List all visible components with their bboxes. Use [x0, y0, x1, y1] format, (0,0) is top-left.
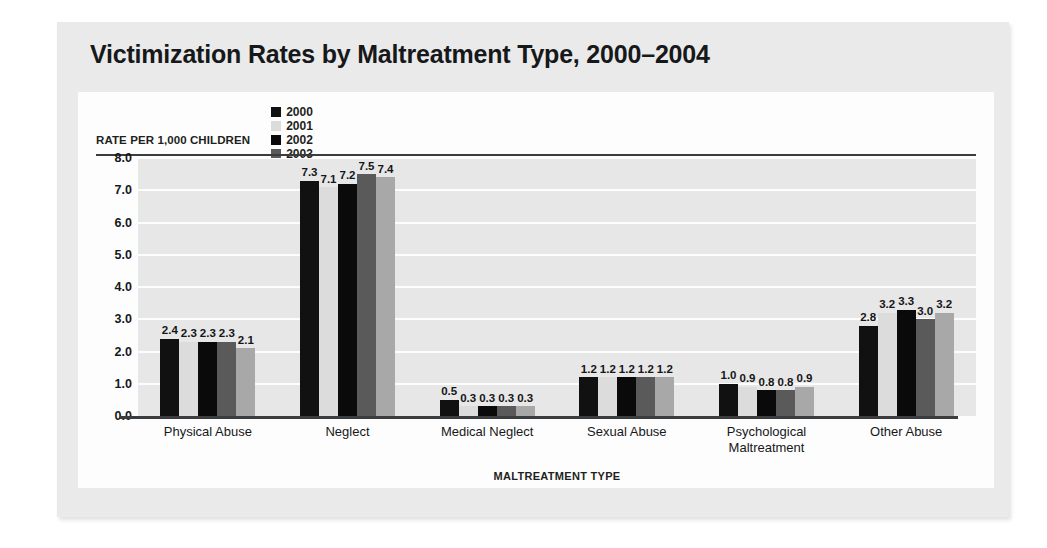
bar[interactable] — [859, 326, 878, 416]
bar[interactable] — [636, 377, 655, 416]
bar-column[interactable]: 1.0 — [719, 158, 738, 416]
bar-column[interactable]: 3.0 — [916, 158, 935, 416]
bar-column[interactable]: 3.2 — [935, 158, 954, 416]
bar-value-label: 7.1 — [321, 174, 337, 186]
bar-column[interactable]: 0.9 — [795, 158, 814, 416]
bar-value-label: 0.5 — [441, 386, 457, 398]
bar[interactable] — [878, 313, 897, 416]
bar[interactable] — [300, 181, 319, 416]
y-axis-tick-label: 2.0 — [115, 345, 132, 359]
bar-column[interactable]: 3.2 — [878, 158, 897, 416]
bar-value-label: 1.2 — [619, 364, 635, 376]
bar-column[interactable]: 1.2 — [617, 158, 636, 416]
bar-group-bars: 1.00.90.80.80.9 — [719, 158, 814, 416]
bar[interactable] — [217, 342, 236, 416]
bar[interactable] — [179, 342, 198, 416]
x-axis-category-label: Physical Abuse — [138, 424, 278, 457]
bar-value-label: 2.3 — [219, 328, 235, 340]
bar-column[interactable]: 2.3 — [198, 158, 217, 416]
bar-column[interactable]: 7.3 — [300, 158, 319, 416]
bar-column[interactable]: 2.8 — [859, 158, 878, 416]
bar[interactable] — [655, 377, 674, 416]
bar[interactable] — [478, 406, 497, 416]
bar-value-label: 0.8 — [759, 377, 775, 389]
legend-swatch-icon — [271, 121, 281, 131]
y-axis-tick-label: 7.0 — [115, 183, 132, 197]
bar-column[interactable]: 0.5 — [440, 158, 459, 416]
bar-value-label: 3.2 — [936, 299, 952, 311]
bar-value-label: 3.2 — [879, 299, 895, 311]
title-band: Victimization Rates by Maltreatment Type… — [57, 22, 1009, 92]
bar[interactable] — [579, 377, 598, 416]
bar-column[interactable]: 0.3 — [478, 158, 497, 416]
bar[interactable] — [357, 174, 376, 416]
bar-value-label: 2.3 — [181, 328, 197, 340]
bar[interactable] — [598, 377, 617, 416]
bar[interactable] — [497, 406, 516, 416]
legend-item: 2000 — [271, 105, 313, 119]
bar-column[interactable]: 2.3 — [179, 158, 198, 416]
bar-value-label: 3.3 — [898, 296, 914, 308]
bar-column[interactable]: 0.3 — [497, 158, 516, 416]
bar-value-label: 0.9 — [797, 373, 813, 385]
bar[interactable] — [516, 406, 535, 416]
bar[interactable] — [617, 377, 636, 416]
bar-value-label: 0.8 — [778, 377, 794, 389]
bar[interactable] — [198, 342, 217, 416]
bar-column[interactable]: 2.4 — [160, 158, 179, 416]
bar-column[interactable]: 0.8 — [757, 158, 776, 416]
bar-value-label: 0.3 — [460, 393, 476, 405]
legend-item-label: 2002 — [286, 133, 313, 147]
bar-value-label: 2.1 — [238, 335, 254, 347]
page-title: Victimization Rates by Maltreatment Type… — [90, 40, 710, 69]
screenshot-root: Victimization Rates by Maltreatment Type… — [0, 0, 1047, 548]
x-axis-category-label: Psychological Maltreatment — [697, 424, 837, 457]
bar-value-label: 2.8 — [860, 312, 876, 324]
legend-item: 2001 — [271, 119, 313, 133]
bar[interactable] — [916, 319, 935, 416]
bar-column[interactable]: 1.2 — [598, 158, 617, 416]
bar-column[interactable]: 0.3 — [459, 158, 478, 416]
bar-value-label: 1.2 — [600, 364, 616, 376]
bar[interactable] — [160, 339, 179, 416]
legend-item-label: 2001 — [286, 119, 313, 133]
bar[interactable] — [897, 310, 916, 416]
bar[interactable] — [236, 348, 255, 416]
bar-column[interactable]: 7.4 — [376, 158, 395, 416]
bar-column[interactable]: 1.2 — [636, 158, 655, 416]
bar[interactable] — [776, 390, 795, 416]
bar[interactable] — [795, 387, 814, 416]
x-axis-category-labels: Physical AbuseNeglectMedical NeglectSexu… — [138, 424, 976, 457]
legend-swatch-icon — [271, 135, 281, 145]
bar[interactable] — [719, 384, 738, 416]
bar-group: 2.83.23.33.03.2 — [836, 158, 976, 416]
bar[interactable] — [440, 400, 459, 416]
bar-column[interactable]: 1.2 — [655, 158, 674, 416]
bar-column[interactable]: 2.3 — [217, 158, 236, 416]
bar[interactable] — [459, 406, 478, 416]
bar[interactable] — [376, 177, 395, 416]
bar-column[interactable]: 0.8 — [776, 158, 795, 416]
bar-column[interactable]: 3.3 — [897, 158, 916, 416]
bar-value-label: 1.0 — [721, 370, 737, 382]
bar-column[interactable]: 7.1 — [319, 158, 338, 416]
bar-group-bars: 2.83.23.33.03.2 — [859, 158, 954, 416]
bar-column[interactable]: 0.9 — [738, 158, 757, 416]
bar-column[interactable]: 0.3 — [516, 158, 535, 416]
x-axis-category-label: Sexual Abuse — [557, 424, 697, 457]
bar-column[interactable]: 1.2 — [579, 158, 598, 416]
bar[interactable] — [338, 184, 357, 416]
bar-group-bars: 1.21.21.21.21.2 — [579, 158, 674, 416]
bar-column[interactable]: 2.1 — [236, 158, 255, 416]
bar[interactable] — [738, 387, 757, 416]
bar-value-label: 2.4 — [162, 325, 178, 337]
legend-swatch-icon — [271, 107, 281, 117]
bar-value-label: 0.3 — [498, 393, 514, 405]
bar-column[interactable]: 7.5 — [357, 158, 376, 416]
bar-column[interactable]: 7.2 — [338, 158, 357, 416]
bar[interactable] — [757, 390, 776, 416]
bar[interactable] — [319, 187, 338, 416]
bar[interactable] — [935, 313, 954, 416]
bar-value-label: 7.3 — [302, 167, 318, 179]
bar-value-label: 7.4 — [378, 164, 394, 176]
